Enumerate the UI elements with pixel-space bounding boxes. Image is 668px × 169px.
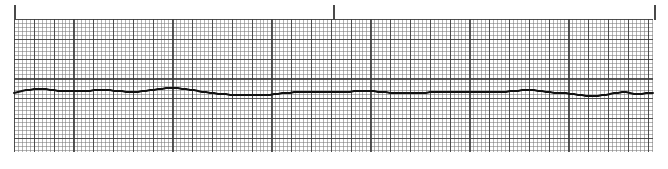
time-marker-tick-0 bbox=[14, 5, 16, 20]
ecg-rhythm-strip bbox=[0, 0, 668, 169]
ecg-grid-paper bbox=[14, 19, 653, 152]
time-marker-tick-1 bbox=[333, 5, 335, 20]
time-marker-tick-2 bbox=[654, 5, 656, 20]
